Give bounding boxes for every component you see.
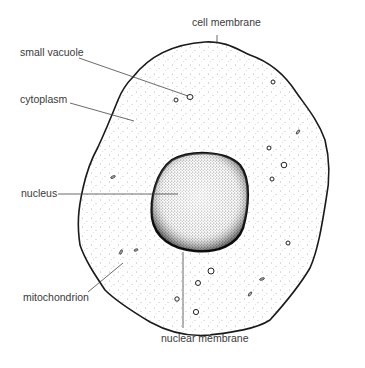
animal-cell-diagram: cell membrane small vacuole cytoplasm nu… — [0, 0, 365, 368]
label-mitochondrion: mitochondrion — [23, 292, 89, 303]
label-cell-membrane: cell membrane — [192, 17, 261, 28]
label-cytoplasm: cytoplasm — [20, 94, 67, 105]
nucleus-shape — [152, 153, 248, 251]
label-small-vacuole: small vacuole — [20, 47, 84, 58]
label-nucleus: nucleus — [21, 188, 57, 199]
label-nuclear-membrane: nuclear membrane — [161, 333, 249, 344]
